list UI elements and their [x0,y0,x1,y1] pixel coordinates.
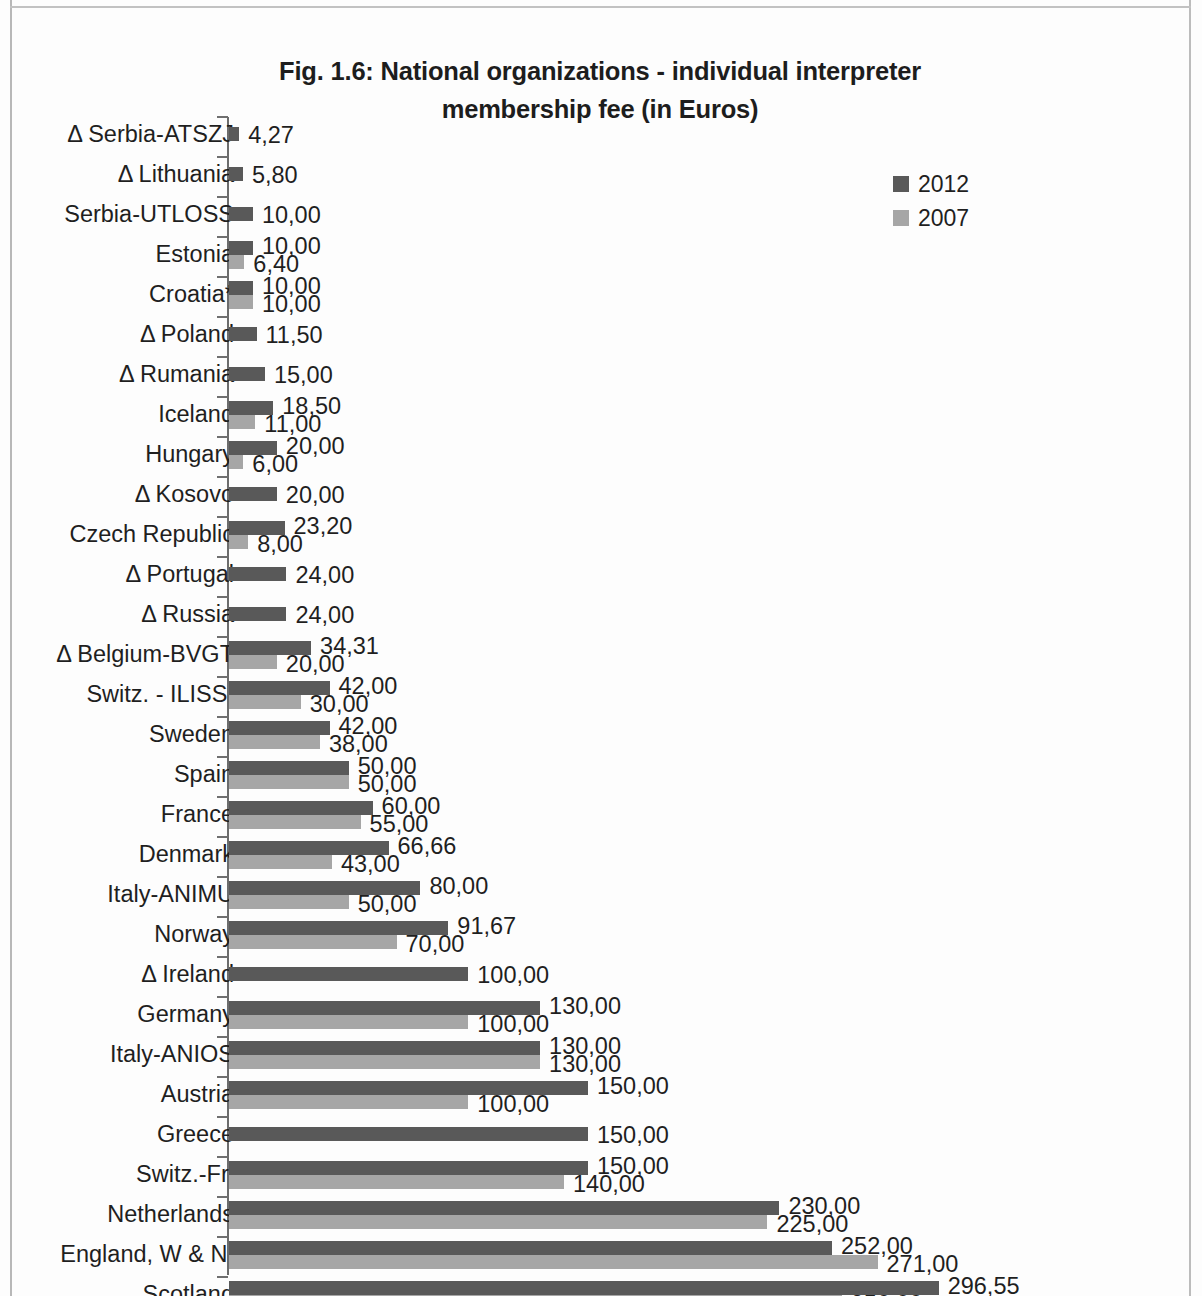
bar-2012 [229,1081,588,1095]
bar-row: Netherlands230,00225,00 [0,1195,1202,1235]
data-label-2012: 5,80 [252,162,298,188]
axis-tick [217,1036,228,1038]
data-label-2012: 91,67 [457,913,516,939]
bar-2007 [229,735,320,749]
axis-tick [217,1276,228,1278]
bar-2012 [229,1041,540,1055]
bar-2007 [229,655,277,669]
axis-tick [217,796,228,798]
bar-2007 [229,695,301,709]
bar-2007 [229,1175,564,1189]
data-label-2012: 24,00 [295,602,354,628]
data-label-2012: 100,00 [477,962,549,988]
plot-area: Δ Serbia-ATSZJ4,27Δ Lithuania5,80Serbia-… [0,115,1202,1280]
axis-tick [217,516,228,518]
bar-2012 [229,401,273,415]
bar-row: Spain50,0050,00 [0,755,1202,795]
bar-row: Austria150,00100,00 [0,1075,1202,1115]
category-label: Δ Portugal [0,560,234,588]
data-label-2012: 4,27 [248,122,294,148]
axis-tick [217,836,228,838]
bar-row: Δ Russia24,00 [0,595,1202,635]
bar-2007 [229,1215,767,1229]
bar-row: Δ Belgium-BVGT34,3120,00 [0,635,1202,675]
bar-row: Greece150,00 [0,1115,1202,1155]
category-label: Δ Belgium-BVGT [0,640,234,668]
category-label: Iceland [0,400,234,428]
bar-2012 [229,1281,939,1295]
bar-row: Serbia-UTLOSS10,00 [0,195,1202,235]
axis-tick [217,636,228,638]
bar-row: Δ Poland11,50 [0,315,1202,355]
bar-2012 [229,761,349,775]
bar-2012 [229,641,311,655]
bar-2012 [229,801,373,815]
chart-page: Fig. 1.6: National organizations - indiv… [0,0,1202,1296]
axis-tick [217,436,228,438]
category-label: Δ Poland [0,320,234,348]
category-label: France [0,800,234,828]
bar-row: Δ Serbia-ATSZJ4,27 [0,115,1202,155]
axis-tick [217,356,228,358]
bar-2007 [229,1015,468,1029]
data-label-2012: 150,00 [597,1073,669,1099]
bar-row: Estonia10,006,40 [0,235,1202,275]
bar-row: England, W & NI252,00271,00 [0,1235,1202,1275]
bar-row: Sweden42,0038,00 [0,715,1202,755]
category-label: Δ Kosovo [0,480,234,508]
category-label: Norway [0,920,234,948]
bar-row: Switz. - ILISSI42,0030,00 [0,675,1202,715]
axis-tick [217,1076,228,1078]
bar-2012 [229,167,243,181]
axis-tick [217,996,228,998]
category-label: Spain [0,760,234,788]
bar-2012 [229,241,253,255]
category-label: Δ Serbia-ATSZJ [0,120,234,148]
category-label: Sweden [0,720,234,748]
bar-row: Germany130,00100,00 [0,995,1202,1035]
category-label: Δ Lithuania [0,160,234,188]
axis-tick [217,116,228,118]
bar-2007 [229,935,397,949]
bar-2012 [229,1201,779,1215]
category-label: Italy-ANIOS [0,1040,234,1068]
bar-2007 [229,295,253,309]
bar-row: Δ Portugal24,00 [0,555,1202,595]
bar-2012 [229,1241,832,1255]
bar-2012 [229,921,448,935]
bar-row: Switz.-Fr.150,00140,00 [0,1155,1202,1195]
data-label-2012: 11,50 [266,322,323,348]
data-label-2012: 66,66 [398,833,457,859]
data-label-2007: 10,00 [262,291,321,317]
bar-2007 [229,535,248,549]
bar-row: Denmark66,6643,00 [0,835,1202,875]
bar-2012 [229,487,277,501]
axis-tick [217,716,228,718]
bar-2012 [229,327,257,341]
bar-2012 [229,367,265,381]
category-label: Austria [0,1080,234,1108]
axis-tick [217,316,228,318]
bar-2012 [229,841,389,855]
bar-row: Δ Kosovo20,00 [0,475,1202,515]
bar-2012 [229,441,277,455]
bar-row: France60,0055,00 [0,795,1202,835]
bar-2012 [229,281,253,295]
bar-2007 [229,415,255,429]
bar-row: Italy-ANIMU80,0050,00 [0,875,1202,915]
page-border-top [10,6,1191,8]
bar-row: Δ Ireland100,00 [0,955,1202,995]
bar-2007 [229,255,244,269]
axis-tick [217,156,228,158]
axis-tick [217,196,228,198]
category-label: Netherlands [0,1200,234,1228]
data-label-2007: 225,00 [776,1211,848,1237]
category-label: Italy-ANIMU [0,880,234,908]
bar-row: Δ Lithuania5,80 [0,155,1202,195]
bar-2007 [229,1095,468,1109]
category-label: Δ Ireland [0,960,234,988]
bar-2012 [229,567,286,581]
axis-tick [217,1196,228,1198]
category-label: Germany [0,1000,234,1028]
category-label: Δ Russia [0,600,234,628]
